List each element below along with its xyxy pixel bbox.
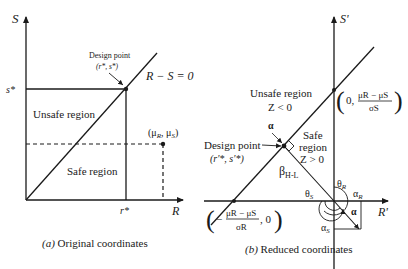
design-point-pointer-reduced [262, 145, 281, 146]
theta-s-arc [319, 201, 343, 221]
mean-point-label: (μR, μS) [148, 127, 178, 140]
mean-point-marker [161, 142, 165, 146]
design-point-label-reduced: Design point [204, 139, 261, 151]
design-point-coords: (r*, s*) [96, 62, 119, 71]
svg-text:): ) [394, 86, 403, 115]
right-caption: (b) Reduced coordinates [245, 243, 353, 256]
alpha-s-label: αS [321, 222, 330, 235]
s-star-label: s* [6, 84, 15, 95]
limit-state-line-reduced [211, 47, 374, 225]
safe-region-label: Safe region [67, 165, 118, 177]
design-point-label: Design point [89, 51, 131, 60]
safe-region-label-line1: Safe [303, 129, 323, 141]
svg-text:σS: σS [369, 103, 379, 113]
unsafe-region-label: Unsafe region [33, 108, 96, 120]
right-panel-reduced-coordinates: S' R' ( 0, μR − μS σS ) ( − μR − μS σR ,… [204, 12, 403, 269]
r-star-label: r* [120, 205, 129, 216]
svg-text:−: − [216, 213, 222, 225]
alpha-vector-label: α [351, 206, 357, 217]
theta-s-label: θS [305, 188, 314, 201]
svg-text:): ) [274, 205, 283, 234]
safe-region-label-line2: region [299, 141, 328, 153]
svg-text:μR − μS: μR − μS [358, 90, 388, 100]
alpha-label-design: α [268, 120, 274, 131]
r-prime-axis-label: R' [377, 205, 388, 219]
theta-r-label: θR [337, 178, 347, 191]
design-point-pointer [109, 73, 123, 85]
beta-hl-label: βH-L [279, 164, 299, 180]
r-axis-label: R [171, 204, 180, 218]
s-prime-axis-label: S' [340, 12, 349, 26]
left-caption: (a) Original coordinates [42, 237, 148, 250]
r-intercept-label: ( − μR − μS σR , 0 ) [206, 205, 283, 234]
left-panel-original-coordinates: S R s* r* Design point (r*, s*) R − S = … [6, 11, 194, 250]
design-point-marker [124, 87, 128, 91]
safe-condition-label: Z > 0 [300, 153, 324, 165]
reliability-diagram: S R s* r* Design point (r*, s*) R − S = … [0, 0, 408, 269]
unsafe-region-label-reduced: Unsafe region [250, 87, 313, 99]
svg-text:, 0: , 0 [260, 213, 272, 225]
svg-text:0,: 0, [346, 94, 355, 106]
svg-text:(: ( [336, 86, 345, 115]
svg-text:σR: σR [236, 222, 247, 232]
r-intercept-marker [232, 199, 236, 203]
unsafe-condition-label: Z < 0 [268, 101, 292, 113]
limit-state-label: R − S = 0 [145, 69, 194, 83]
s-intercept-label: ( 0, μR − μS σS ) [336, 86, 403, 115]
alpha-pointer [272, 133, 282, 143]
limit-state-line [26, 53, 157, 200]
s-axis-label: S [12, 11, 19, 26]
svg-text:(: ( [206, 205, 215, 234]
alpha-r-label: αR [353, 188, 363, 201]
design-point-coords-reduced: (r'*, s'*) [210, 153, 244, 165]
svg-text:μR − μS: μR − μS [226, 208, 256, 218]
